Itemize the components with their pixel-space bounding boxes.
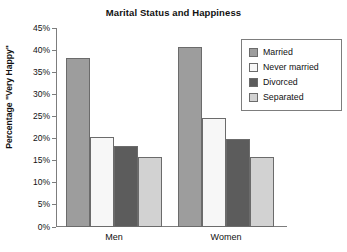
y-axis-tick-label: 0%: [20, 223, 50, 232]
y-axis-tick-label: 40%: [20, 46, 50, 55]
y-axis-tick-label: 45%: [20, 24, 50, 33]
chart-title: Marital Status and Happiness: [0, 7, 347, 18]
y-axis-tick: [52, 182, 56, 183]
y-axis-tick: [52, 72, 56, 73]
x-axis-group-label: Men: [74, 233, 154, 242]
bar: [202, 118, 226, 227]
bar: [114, 146, 138, 227]
bar: [138, 157, 162, 227]
legend-label: Separated: [263, 93, 304, 102]
legend-swatch-icon: [249, 78, 258, 87]
y-axis-tick-label: 20%: [20, 134, 50, 143]
legend-swatch-icon: [249, 48, 258, 57]
bar: [178, 47, 202, 227]
bar: [90, 137, 114, 227]
legend-item: Divorced: [249, 75, 335, 90]
legend-label: Divorced: [263, 78, 298, 87]
y-axis-line: [56, 28, 57, 227]
y-axis-tick: [52, 94, 56, 95]
y-axis-tick: [52, 28, 56, 29]
legend-label: Married: [263, 48, 293, 57]
y-axis-tick-label: 15%: [20, 156, 50, 165]
y-axis-tick: [52, 160, 56, 161]
y-axis-tick: [52, 116, 56, 117]
y-axis-tick-label: 25%: [20, 112, 50, 121]
legend-item: Separated: [249, 90, 335, 105]
legend-label: Never married: [263, 63, 319, 72]
x-axis-group-label: Women: [186, 233, 266, 242]
y-axis-tick-label: 10%: [20, 178, 50, 187]
legend-item: Married: [249, 45, 335, 60]
y-axis-tick: [52, 138, 56, 139]
y-axis-tick: [52, 227, 56, 228]
y-axis-tick-label: 35%: [20, 68, 50, 77]
legend-swatch-icon: [249, 93, 258, 102]
bar-chart: Marital Status and Happiness 0%5%10%15%2…: [0, 0, 347, 252]
y-axis-tick: [52, 50, 56, 51]
y-axis-title: Percentage "Very Happy": [4, 22, 14, 172]
bar: [66, 58, 90, 227]
chart-legend: MarriedNever marriedDivorcedSeparated: [241, 39, 342, 111]
y-axis-tick-label: 30%: [20, 90, 50, 99]
legend-item: Never married: [249, 60, 335, 75]
bar: [226, 139, 250, 227]
y-axis-tick-label: 5%: [20, 200, 50, 209]
legend-swatch-icon: [249, 63, 258, 72]
y-axis-tick: [52, 204, 56, 205]
bar: [250, 157, 274, 227]
